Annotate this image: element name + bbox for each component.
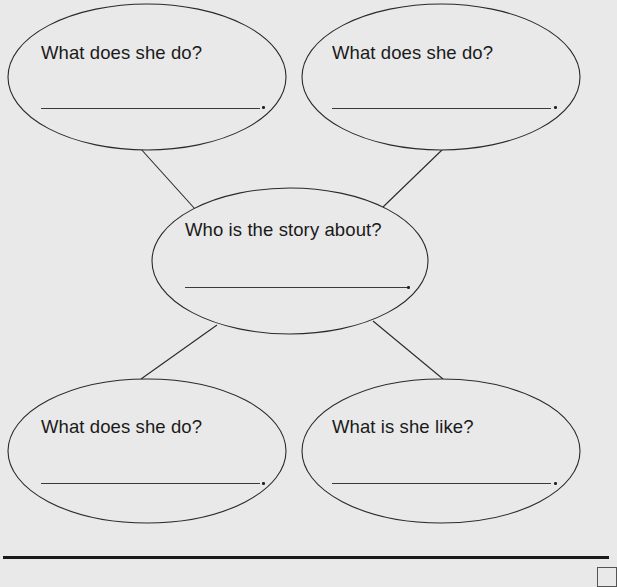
bubble-bottom-right-outline [302,379,580,523]
period-mark [554,482,557,485]
connector-top-left [140,148,195,209]
page-corner-box [597,567,617,587]
bubble-top-left-outline [8,4,286,150]
bubble-question: What does she do? [41,42,202,64]
bubble-question: What is she like? [332,416,474,438]
answer-blank[interactable] [332,108,551,109]
answer-blank[interactable] [41,483,260,484]
page-divider-rule [3,556,609,559]
bubble-top-right-outline [302,4,580,150]
period-mark [407,286,410,289]
answer-blank[interactable] [332,483,551,484]
bubble-question: What does she do? [332,42,493,64]
bubble-bottom-left-outline [8,379,286,523]
bubble-center-outline [152,188,428,334]
connector-top-right [383,149,443,207]
connector-bottom-left [141,325,217,379]
bubble-question: What does she do? [41,416,202,438]
period-mark [262,482,265,485]
bubble-question: Who is the story about? [185,219,382,241]
answer-blank[interactable] [185,287,407,288]
period-mark [262,106,265,109]
answer-blank[interactable] [41,108,260,109]
period-mark [554,106,557,109]
connector-bottom-right [373,321,443,379]
